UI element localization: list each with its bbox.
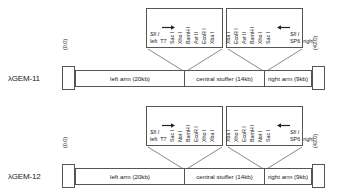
segment-left-arm-gem12: left arm (20kb) xyxy=(75,168,185,185)
terminal-promoter: SP6 xyxy=(290,38,300,44)
terminal-side-promoter: left T7 xyxy=(150,136,167,143)
enzyme-label: Sac I xyxy=(265,32,271,44)
arrow-right-icon xyxy=(162,25,175,30)
segment-right-arm-gem11: right arm (9kb) xyxy=(265,70,312,87)
enzyme-label: BamH I xyxy=(249,125,255,142)
enzyme-label: EcoR I xyxy=(201,28,207,44)
arrow-right-icon xyxy=(162,123,175,128)
terminal-label-sfi-right-gem12: Sfi I SP6 right xyxy=(290,129,314,143)
segment-right-arm-gem12: right arm (9kb) xyxy=(265,168,312,185)
terminal-enzyme: Sfi I xyxy=(290,129,314,136)
panel-gem12: Sfi I left T7 Sac I Not I BamH I EcoR I … xyxy=(0,98,340,195)
segment-left-arm-gem11: left arm (20kb) xyxy=(75,70,185,87)
enzyme-label: Not I xyxy=(257,131,263,142)
callout-gem12-right-polylinker: Xba I Xho I EcoR I BamH I Not I Sac I Sf… xyxy=(226,106,303,146)
enzyme-label: BamH I xyxy=(185,27,191,44)
terminal-side-promoter: left T7 xyxy=(150,38,167,45)
terminal-enzyme: Sfi I xyxy=(290,31,314,38)
terminal-enzyme: Sfi I xyxy=(150,129,167,136)
cos-site-right-gem11 xyxy=(312,66,325,90)
enzyme-label: Xho I xyxy=(257,32,263,44)
enzyme-label: Avr II xyxy=(241,32,247,44)
coordinate-left-gem11: (0.0) xyxy=(62,39,68,50)
cos-site-left-gem12 xyxy=(62,164,75,188)
panel-gem11: Sfi I left T7 Sac I Xho I BamH I Avr II … xyxy=(0,0,340,97)
enzyme-label: EcoR I xyxy=(193,126,199,142)
enzyme-label: Xba I xyxy=(225,130,231,142)
coordinate-left-gem12: (0.0) xyxy=(62,137,68,148)
terminal-label-sfi-right-gem11: Sfi I SP6 right xyxy=(290,31,314,45)
vector-name-gem12: λGEM-12 xyxy=(8,172,64,181)
terminal-promoter-side: SP6 right xyxy=(290,38,314,45)
vector-map-figure: Sfi I left T7 Sac I Xho I BamH I Avr II … xyxy=(0,0,340,195)
terminal-promoter: SP6 xyxy=(290,136,300,142)
segment-central-stuffer-gem12: central stuffer (14kb) xyxy=(185,168,265,185)
enzyme-label: Sac I xyxy=(265,130,271,142)
vector-name-gem11: λGEM-11 xyxy=(8,74,64,83)
terminal-promoter-side: SP6 right xyxy=(290,136,314,143)
terminal-enzyme: Sfi I xyxy=(150,31,167,38)
enzyme-label: EcoR I xyxy=(241,126,247,142)
coordinate-right-gem11: (43.0) xyxy=(312,36,318,50)
enzyme-label: BamH I xyxy=(249,27,255,44)
terminal-promoter: T7 xyxy=(160,136,166,142)
callout-gem12-left-polylinker: Sfi I left T7 Sac I Not I BamH I EcoR I … xyxy=(146,106,223,146)
callout-gem11-right-polylinker: Xba I EcoR I Avr II BamH I Xho I Sac I S… xyxy=(226,8,303,48)
enzyme-label: Sac I xyxy=(169,32,175,44)
arrow-left-icon xyxy=(277,123,290,128)
enzyme-label: Xba I xyxy=(209,32,215,44)
callout-gem11-left-polylinker: Sfi I left T7 Sac I Xho I BamH I Avr II … xyxy=(146,8,223,48)
enzyme-label: BamH I xyxy=(185,125,191,142)
enzyme-label: Not I xyxy=(177,131,183,142)
arrow-left-icon xyxy=(277,25,290,30)
enzyme-label: Xba I xyxy=(225,32,231,44)
enzyme-label: Xho I xyxy=(233,130,239,142)
enzyme-label: EcoR I xyxy=(233,28,239,44)
terminal-label-sfi-left-gem11: Sfi I left T7 xyxy=(150,31,167,45)
coordinate-right-gem12: (43.0) xyxy=(312,134,318,148)
enzyme-label: Sac I xyxy=(169,130,175,142)
enzyme-label: Avr II xyxy=(193,32,199,44)
terminal-side-label: left xyxy=(150,38,157,44)
terminal-side-label: left xyxy=(150,136,157,142)
enzyme-label: Xba I xyxy=(209,130,215,142)
enzyme-label: Xho I xyxy=(201,130,207,142)
terminal-promoter: T7 xyxy=(160,38,166,44)
cos-site-left-gem11 xyxy=(62,66,75,90)
terminal-label-sfi-left-gem12: Sfi I left T7 xyxy=(150,129,167,143)
cos-site-right-gem12 xyxy=(312,164,325,188)
enzyme-label: Xho I xyxy=(177,32,183,44)
segment-central-stuffer-gem11: central stuffer (14kb) xyxy=(185,70,265,87)
